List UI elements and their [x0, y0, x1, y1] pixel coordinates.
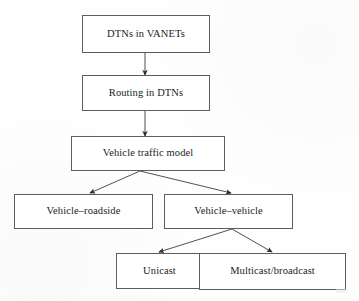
edge-traffic-to-roadside: [90, 171, 140, 193]
node-label: Routing in DTNs: [109, 88, 183, 99]
edge-vehicle-to-multicast: [232, 229, 272, 252]
edge-traffic-to-vehicle: [140, 171, 231, 193]
node-label: Vehicle–roadside: [47, 206, 121, 217]
node-routing-in-dtns[interactable]: Routing in DTNs: [82, 75, 210, 111]
node-label: Vehicle–vehicle: [194, 206, 263, 217]
node-vehicle-vehicle[interactable]: Vehicle–vehicle: [164, 194, 293, 229]
node-label: Vehicle traffic model: [103, 148, 194, 159]
node-unicast[interactable]: Unicast: [116, 253, 203, 289]
edge-vehicle-to-unicast: [159, 229, 232, 252]
scan-artifact: [336, 289, 348, 293]
node-dtns-in-vanets[interactable]: DTNs in VANETs: [82, 15, 210, 53]
node-vehicle-traffic-model[interactable]: Vehicle traffic model: [71, 136, 225, 171]
node-vehicle-roadside[interactable]: Vehicle–roadside: [14, 194, 153, 229]
flowchart-diagram: DTNs in VANETs Routing in DTNs Vehicle t…: [0, 0, 359, 301]
node-label: DTNs in VANETs: [107, 29, 185, 40]
node-label: Multicast/broadcast: [230, 266, 315, 277]
node-label: Unicast: [143, 266, 176, 277]
node-multicast-broadcast[interactable]: Multicast/broadcast: [199, 253, 346, 290]
